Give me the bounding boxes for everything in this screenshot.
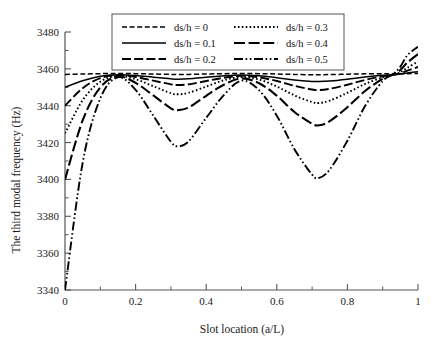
x-tick-label: 0.4 — [199, 295, 213, 307]
legend-label: ds/h = 0.5 — [286, 54, 328, 65]
y-tick-label: 3460 — [37, 63, 60, 75]
y-tick-label: 3420 — [37, 137, 60, 149]
third-modal-frequency-chart: 33403360338034003420344034603480 00.20.4… — [0, 0, 444, 343]
chart-figure: 33403360338034003420344034603480 00.20.4… — [0, 0, 444, 343]
y-tick-label: 3340 — [37, 284, 60, 296]
y-tick-label: 3480 — [37, 26, 60, 38]
y-tick-label: 3360 — [37, 247, 60, 259]
y-tick-label: 3380 — [37, 210, 60, 222]
y-tick-label: 3440 — [37, 100, 60, 112]
x-tick-label: 0 — [62, 295, 68, 307]
x-axis-title: Slot location (a/L) — [200, 323, 284, 336]
legend-label: ds/h = 0 — [174, 22, 208, 33]
x-tick-label: 0.2 — [129, 295, 143, 307]
x-tick-label: 1 — [415, 295, 421, 307]
legend-label: ds/h = 0.1 — [174, 38, 216, 49]
legend-label: ds/h = 0.3 — [286, 22, 328, 33]
x-tick-label: 0.6 — [270, 295, 284, 307]
chart-legend: ds/h = 0ds/h = 0.3ds/h = 0.1ds/h = 0.4ds… — [112, 14, 344, 70]
y-tick-label: 3400 — [37, 173, 60, 185]
y-axis-title: The third modal frequency (Hz) — [10, 106, 23, 253]
legend-label: ds/h = 0.2 — [174, 54, 216, 65]
legend-label: ds/h = 0.4 — [286, 38, 329, 49]
x-tick-label: 0.8 — [341, 295, 355, 307]
